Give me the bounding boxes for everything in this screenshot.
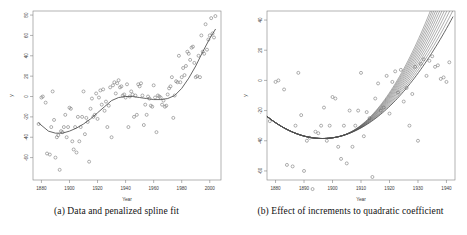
data-point bbox=[303, 169, 306, 172]
data-point bbox=[357, 109, 360, 112]
data-point bbox=[48, 153, 51, 156]
data-point bbox=[172, 116, 175, 119]
x-tick-label: 1930 bbox=[413, 186, 424, 191]
data-point bbox=[205, 48, 208, 51]
data-point bbox=[170, 76, 173, 79]
data-point bbox=[325, 139, 328, 142]
data-point bbox=[362, 135, 365, 138]
y-tick-label: 40 bbox=[25, 53, 30, 59]
x-tick-label: 1880 bbox=[36, 186, 47, 191]
data-point bbox=[102, 88, 105, 91]
data-point bbox=[177, 54, 180, 57]
data-point bbox=[126, 83, 129, 86]
caption-panel-b: (b) Effect of increments to quadratic co… bbox=[234, 206, 467, 216]
y-axis: -60-40-20020406080y bbox=[9, 12, 34, 161]
data-point bbox=[182, 67, 185, 70]
data-point bbox=[154, 96, 157, 99]
data-point bbox=[82, 90, 85, 93]
data-point bbox=[50, 126, 53, 129]
data-point bbox=[448, 61, 451, 64]
data-point bbox=[351, 145, 354, 148]
data-point bbox=[81, 115, 84, 118]
x-axis: 1880189019001910192019301940Year bbox=[270, 180, 452, 202]
data-point bbox=[144, 103, 147, 106]
data-point bbox=[411, 92, 414, 95]
data-point bbox=[268, 120, 271, 123]
data-point bbox=[140, 82, 143, 85]
x-tick-label: 1980 bbox=[177, 186, 188, 191]
data-point bbox=[54, 156, 57, 159]
data-point bbox=[445, 80, 448, 83]
data-point bbox=[348, 109, 351, 112]
y-axis-label: y bbox=[243, 94, 248, 97]
panel-a: 1880190019201940196019802000Year-60-40-2… bbox=[0, 0, 233, 235]
y-tick-label: 0 bbox=[259, 79, 264, 82]
data-point bbox=[110, 136, 113, 139]
x-tick-label: 1940 bbox=[441, 186, 452, 191]
panel-b: 1880189019001910192019301940Year-60-40-2… bbox=[234, 0, 467, 235]
data-point bbox=[75, 151, 78, 154]
scatter-points bbox=[268, 55, 450, 191]
data-point bbox=[180, 76, 183, 79]
data-point bbox=[145, 113, 148, 116]
data-point bbox=[277, 79, 280, 82]
data-point bbox=[65, 136, 68, 139]
y-tick-label: 20 bbox=[25, 73, 30, 79]
data-point bbox=[294, 124, 297, 127]
data-point bbox=[305, 139, 308, 142]
data-point bbox=[442, 76, 445, 79]
fan-curve bbox=[267, 0, 453, 139]
quadratic-increment-fan bbox=[267, 0, 453, 139]
data-point bbox=[71, 140, 74, 143]
data-point bbox=[64, 113, 67, 116]
data-point bbox=[76, 115, 79, 118]
x-axis: 1880190019201940196019802000Year bbox=[36, 180, 215, 202]
data-point bbox=[402, 100, 405, 103]
data-point bbox=[337, 145, 340, 148]
data-point bbox=[100, 103, 103, 106]
data-point bbox=[109, 86, 112, 89]
y-tick-label: -40 bbox=[25, 133, 30, 140]
data-point bbox=[142, 124, 145, 127]
data-point bbox=[130, 90, 133, 93]
figure-two-panel: 1880190019201940196019802000Year-60-40-2… bbox=[0, 0, 467, 235]
y-tick-label: -20 bbox=[259, 107, 264, 114]
data-point bbox=[95, 92, 98, 95]
data-point bbox=[342, 124, 345, 127]
data-point bbox=[62, 126, 65, 129]
data-point bbox=[328, 124, 331, 127]
data-point bbox=[166, 93, 169, 96]
y-tick-label: 60 bbox=[25, 32, 30, 38]
data-point bbox=[117, 79, 120, 82]
data-point bbox=[300, 114, 303, 117]
data-point bbox=[135, 113, 138, 116]
data-point bbox=[51, 90, 54, 93]
data-point bbox=[189, 58, 192, 61]
y-axis: -60-40-2002040y bbox=[243, 17, 268, 174]
x-tick-label: 2000 bbox=[205, 186, 216, 191]
data-point bbox=[291, 165, 294, 168]
data-point bbox=[58, 168, 61, 171]
data-point bbox=[183, 74, 186, 77]
data-point bbox=[374, 97, 377, 100]
data-point bbox=[106, 126, 109, 129]
data-point bbox=[193, 61, 196, 64]
data-point bbox=[107, 104, 110, 107]
data-point bbox=[210, 17, 213, 20]
x-axis-label: Year bbox=[356, 197, 366, 202]
data-point bbox=[360, 71, 363, 74]
data-point bbox=[161, 103, 164, 106]
plot-b: 1880189019001910192019301940Year-60-40-2… bbox=[234, 0, 467, 202]
x-tick-label: 1890 bbox=[299, 186, 310, 191]
data-point bbox=[44, 101, 47, 104]
y-tick-label: -60 bbox=[259, 167, 264, 174]
data-point bbox=[297, 71, 300, 74]
y-tick-label: 20 bbox=[259, 47, 264, 53]
y-tick-label: -60 bbox=[25, 154, 30, 161]
y-tick-label: -40 bbox=[259, 137, 264, 144]
fan-curve bbox=[267, 0, 453, 138]
data-point bbox=[274, 80, 277, 83]
data-point bbox=[155, 131, 158, 134]
data-point bbox=[97, 96, 100, 99]
plot-frame bbox=[33, 11, 221, 180]
